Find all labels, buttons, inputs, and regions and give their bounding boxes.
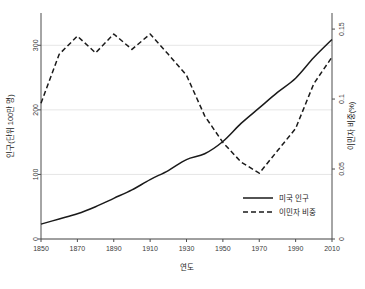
ytick-label-right-0: 0 bbox=[338, 237, 345, 241]
xtick-label-1910: 1910 bbox=[142, 245, 158, 252]
ytick-label-left-200: 200 bbox=[32, 104, 39, 116]
ytick-label-right-3: 0.15 bbox=[338, 22, 345, 36]
legend-label-0: 미국 인구 bbox=[279, 193, 309, 203]
ytick-label-left-100: 100 bbox=[32, 168, 39, 180]
y-axis-title: 인구(단위 100만 명) bbox=[5, 94, 15, 158]
xtick-label-1970: 1970 bbox=[251, 245, 267, 252]
ytick-label-left-0: 0 bbox=[32, 237, 39, 241]
ytick-label-right-2: 0.1 bbox=[338, 94, 345, 104]
ytick-label-left-300: 300 bbox=[32, 39, 39, 51]
xtick-label-1890: 1890 bbox=[106, 245, 122, 252]
y2-axis-title: 이민자 비중(%) bbox=[346, 101, 356, 150]
xtick-label-2010: 2010 bbox=[324, 245, 340, 252]
xtick-label-1930: 1930 bbox=[179, 245, 195, 252]
chart-legend: 미국 인구이민자 비중 bbox=[243, 193, 316, 217]
xtick-label-1950: 1950 bbox=[215, 245, 231, 252]
x-axis-title: 연도 bbox=[180, 263, 194, 272]
series-line-1 bbox=[41, 34, 332, 173]
ytick-label-right-1: 0.05 bbox=[338, 162, 345, 176]
chart-figure: 010020030000.050.10.15185018701890191019… bbox=[0, 0, 365, 289]
xtick-label-1850: 1850 bbox=[33, 245, 49, 252]
legend-label-1: 이민자 비중 bbox=[279, 207, 316, 217]
chart-canvas: 010020030000.050.10.15185018701890191019… bbox=[0, 0, 365, 289]
xtick-label-1990: 1990 bbox=[288, 245, 304, 252]
xtick-label-1870: 1870 bbox=[70, 245, 86, 252]
ticks-group: 010020030000.050.10.15185018701890191019… bbox=[32, 22, 345, 252]
axes-group bbox=[41, 13, 332, 239]
